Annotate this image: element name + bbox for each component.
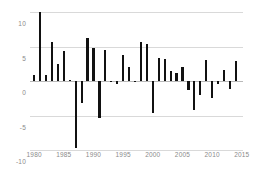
bar — [181, 67, 183, 81]
bar — [110, 81, 112, 82]
y-axis: 1050-5-10 — [0, 12, 26, 150]
bar — [33, 75, 35, 81]
bar — [45, 75, 47, 81]
bar — [140, 42, 142, 81]
x-axis: 19801985199019952000200520102015 — [30, 152, 243, 166]
bar — [205, 60, 207, 81]
x-tick-label: 1985 — [56, 152, 71, 159]
bar — [199, 81, 201, 95]
bar — [175, 73, 177, 81]
bar — [63, 51, 65, 81]
bar — [98, 81, 100, 118]
bar — [235, 61, 237, 81]
bar — [104, 50, 106, 81]
bar — [122, 55, 124, 81]
bar — [170, 71, 172, 81]
bar — [57, 64, 59, 81]
x-tick-label: 2000 — [145, 152, 160, 159]
x-tick-label: 1980 — [27, 152, 42, 159]
bar — [69, 80, 71, 81]
bar — [152, 81, 154, 113]
bar — [211, 81, 213, 98]
y-tick-label: 10 — [18, 21, 26, 28]
x-tick-label: 2015 — [234, 152, 249, 159]
y-tick-label: 0 — [22, 90, 26, 97]
bar — [39, 12, 41, 81]
bar — [146, 44, 148, 81]
bar — [217, 81, 219, 84]
bar — [81, 81, 83, 103]
y-tick-label: 5 — [22, 55, 26, 62]
bar — [116, 81, 118, 84]
bar — [164, 59, 166, 81]
bar — [75, 81, 77, 148]
bar — [86, 38, 88, 81]
bar — [51, 42, 53, 81]
bar — [134, 81, 136, 82]
x-tick-label: 2010 — [205, 152, 220, 159]
y-tick-label: -5 — [20, 124, 26, 131]
bar-chart: 1050-5-10 198019851990199520002005201020… — [0, 0, 254, 174]
x-tick-label: 1995 — [116, 152, 131, 159]
bar — [229, 81, 231, 89]
y-tick-label: -10 — [16, 159, 26, 166]
bar — [193, 81, 195, 110]
bar — [187, 81, 189, 90]
bars-layer — [30, 12, 243, 150]
x-tick-label: 2005 — [175, 152, 190, 159]
bar — [223, 70, 225, 81]
x-tick-label: 1990 — [86, 152, 101, 159]
bar — [158, 58, 160, 81]
bar — [92, 48, 94, 81]
plot-area — [30, 12, 243, 150]
bar — [128, 67, 130, 81]
